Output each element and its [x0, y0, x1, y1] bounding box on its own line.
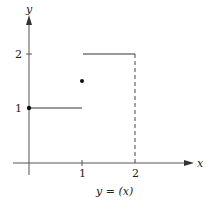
- isolated-point-dot: [80, 79, 84, 83]
- closed-endpoint-dot: [27, 106, 31, 110]
- y-tick-label-1: 1: [15, 102, 22, 115]
- y-tick-label-2: 2: [15, 48, 22, 61]
- y-axis-arrow-icon: [26, 15, 32, 25]
- x-axis-label: x: [197, 157, 204, 170]
- y-axis-label: y: [25, 3, 33, 16]
- x-tick-label-2: 2: [132, 167, 139, 180]
- x-axis-arrow-icon: [184, 160, 194, 166]
- x-tick-label-1: 1: [79, 167, 86, 180]
- step-function-chart: y x 1 2 2 1 y = (x): [0, 0, 213, 206]
- chart-caption: y = (x): [95, 185, 133, 198]
